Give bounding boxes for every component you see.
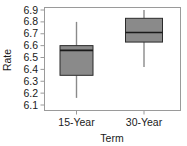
x-tick-label-30-year: 30-Year [126,116,163,128]
y-tick-label: 6.7 [23,27,38,39]
y-axis-tickmarks [41,10,45,105]
box-iqr [126,18,163,42]
x-axis-tickmarks [77,111,145,115]
y-tick-label: 6.9 [23,4,38,16]
x-axis-title: Term [100,132,124,144]
y-tick-label: 6.8 [23,15,38,27]
y-tick-labels: 6.9 6.8 6.7 6.6 6.5 6.4 6.3 6.2 6.1 [23,4,38,111]
y-tick-label: 6.1 [23,99,38,111]
y-tick-label: 6.6 [23,39,38,51]
x-tick-label-15-year: 15-Year [58,116,95,128]
boxplot-chart: Rate 6.9 6.8 6.7 6.6 6.5 6.4 6.3 6.2 6.1 [0,0,187,146]
y-tick-label: 6.5 [23,51,38,63]
box-group-15-year [60,22,93,98]
y-axis-title: Rate [1,49,13,71]
y-tick-label: 6.2 [23,87,38,99]
y-tick-label: 6.3 [23,75,38,87]
box-group-30-year [126,10,163,67]
plot-svg: Rate 6.9 6.8 6.7 6.6 6.5 6.4 6.3 6.2 6.1 [0,0,187,146]
y-tick-label: 6.4 [23,63,38,75]
